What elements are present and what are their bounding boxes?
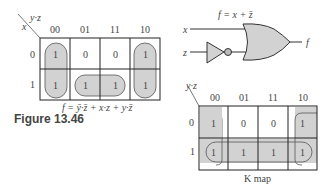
cell: 1 bbox=[83, 80, 88, 91]
input-z-label: z bbox=[182, 47, 187, 58]
circuit-title: f = x + z̄ bbox=[218, 9, 253, 20]
col-header: 00 bbox=[50, 24, 60, 35]
right-kmap: y·z 00 01 11 10 0 1 1 0 0 1 1 1 1 1 K ma… bbox=[185, 80, 317, 184]
inversion-bubble bbox=[225, 49, 232, 56]
col-header: 01 bbox=[80, 24, 90, 35]
cell: 1 bbox=[300, 118, 305, 129]
row-header: 0 bbox=[189, 117, 194, 128]
cell: 0 bbox=[113, 49, 118, 60]
output-f-label: f bbox=[306, 37, 310, 48]
cell: 0 bbox=[241, 118, 246, 129]
group-col10-shade bbox=[295, 107, 317, 139]
col-header: 00 bbox=[210, 92, 220, 103]
cell: 0 bbox=[83, 49, 88, 60]
left-kmap-row-var: x bbox=[21, 21, 27, 32]
cell: 1 bbox=[211, 147, 216, 158]
cell: 1 bbox=[113, 80, 118, 91]
cell: 1 bbox=[143, 49, 148, 60]
figure-label: Figure 13.46 bbox=[14, 112, 84, 126]
col-header: 10 bbox=[298, 92, 308, 103]
right-kmap-col-var: y·z bbox=[185, 80, 197, 91]
col-header: 11 bbox=[110, 24, 120, 35]
cell: 1 bbox=[211, 118, 216, 129]
left-kmap: y·z x 00 01 11 10 0 1 1 0 0 1 1 1 1 1 f … bbox=[18, 12, 160, 113]
col-header: 11 bbox=[268, 92, 278, 103]
cell: 1 bbox=[271, 147, 276, 158]
row-header: 1 bbox=[190, 146, 195, 157]
or-gate-icon bbox=[243, 24, 290, 60]
row-header: 0 bbox=[30, 49, 35, 60]
not-gate-icon bbox=[207, 42, 224, 63]
diagram-canvas: y·z x 00 01 11 10 0 1 1 0 0 1 1 1 1 1 f … bbox=[0, 0, 327, 185]
cell: 1 bbox=[241, 147, 246, 158]
cell: 0 bbox=[271, 118, 276, 129]
right-kmap-caption: K map bbox=[244, 173, 271, 184]
col-header: 01 bbox=[239, 92, 249, 103]
left-kmap-col-var: y·z bbox=[29, 12, 41, 23]
logic-circuit: f = x + z̄ x z f bbox=[182, 9, 310, 63]
cell: 1 bbox=[53, 80, 58, 91]
row-header: 1 bbox=[30, 79, 35, 90]
col-header: 10 bbox=[140, 24, 150, 35]
cell: 1 bbox=[143, 80, 148, 91]
cell: 1 bbox=[300, 147, 305, 158]
cell: 1 bbox=[53, 49, 58, 60]
input-x-label: x bbox=[182, 24, 188, 35]
